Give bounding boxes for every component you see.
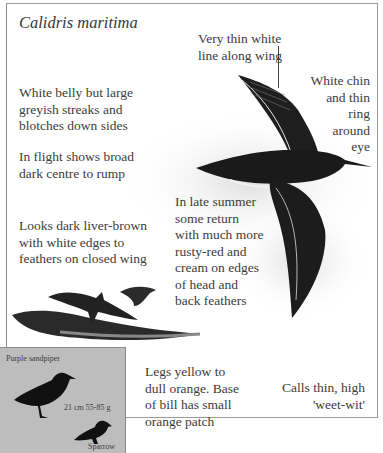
silhouettes bbox=[0, 348, 125, 453]
size-comparison-box: Purple sandpiper 21 cm 55-85 g Sparrow bbox=[0, 347, 126, 453]
annotation-calls: Calls thin, high 'weet-wit' bbox=[268, 380, 365, 413]
annotation-legs: Legs yellow to dull orange. Base of bill… bbox=[145, 364, 239, 430]
sparrow-silhouette bbox=[74, 421, 112, 444]
sandpiper-silhouette bbox=[14, 373, 76, 418]
